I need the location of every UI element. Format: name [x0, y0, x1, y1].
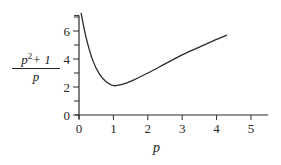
y-axis-label-numerator: p2+ 1 — [12, 49, 60, 69]
x-tick-label: 3 — [179, 121, 186, 136]
x-axis-label: p — [153, 140, 160, 156]
numerator-rest: + 1 — [32, 52, 51, 67]
y-tick-label: 2 — [64, 80, 71, 95]
x-tick-label: 1 — [110, 121, 117, 136]
y-axis-label-denominator: p — [12, 69, 60, 84]
y-tick-label: 6 — [64, 24, 71, 39]
y-axis-label: p2+ 1 p — [12, 49, 60, 84]
y-tick-label: 4 — [64, 52, 71, 67]
x-tick-label: 5 — [248, 121, 255, 136]
x-tick-label: 4 — [213, 121, 220, 136]
y-tick-label: 0 — [64, 108, 71, 123]
x-tick-label: 2 — [145, 121, 152, 136]
x-tick-label: 0 — [76, 121, 83, 136]
series-curve — [81, 13, 227, 86]
